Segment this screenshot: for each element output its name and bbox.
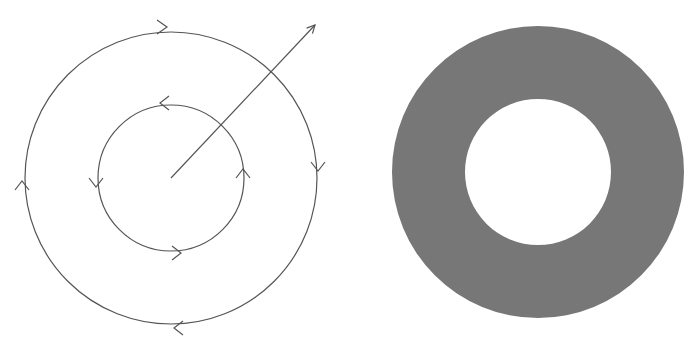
chevron-left-icon — [160, 96, 169, 110]
chevron-down-icon — [311, 162, 325, 171]
chevron-up-icon — [15, 181, 29, 190]
annulus-region — [392, 26, 684, 318]
inner-direction-arrows — [89, 96, 250, 260]
figure-canvas — [0, 0, 700, 348]
outer-direction-arrows — [15, 20, 325, 335]
chevron-right-icon — [172, 246, 181, 260]
annulus-shape — [392, 26, 684, 318]
contour-diagram — [15, 20, 325, 335]
radial-arrow — [171, 25, 315, 178]
chevron-down-icon — [89, 178, 103, 187]
